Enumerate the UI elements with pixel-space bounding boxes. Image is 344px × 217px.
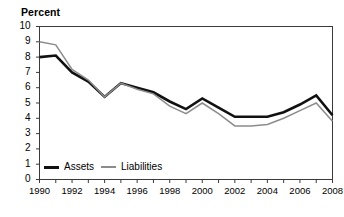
legend-label-assets: Assets [64,162,94,172]
x-tick-label: 1992 [55,186,89,196]
y-axis-tick-marks [36,27,40,180]
x-tick-label: 2004 [250,186,284,196]
x-tick-label: 2006 [283,186,317,196]
legend-entry-assets: Assets [44,162,94,172]
legend-swatch-liabilities-icon [101,166,116,168]
y-tick-label: 10 [13,21,31,31]
x-tick-label: 2002 [218,186,252,196]
chart-container: Percent 012345678910 1990199219941996199… [0,0,344,217]
x-tick-label: 1994 [88,186,122,196]
y-tick-label: 6 [13,82,31,92]
series-line-liabilities [40,42,333,126]
y-tick-label: 8 [13,52,31,62]
y-tick-label: 3 [13,128,31,138]
x-tick-label: 1998 [153,186,187,196]
series-line-assets [40,56,333,117]
x-tick-label: 1996 [120,186,154,196]
x-tick-label: 2008 [316,186,344,196]
legend-swatch-assets-icon [44,166,59,169]
y-tick-label: 9 [13,36,31,46]
x-axis-tick-marks [40,180,333,184]
chart-legend: Assets Liabilities [44,162,162,172]
x-tick-label: 1990 [23,186,57,196]
legend-label-liabilities: Liabilities [121,162,162,172]
y-tick-label: 7 [13,67,31,77]
y-tick-label: 5 [13,98,31,108]
y-tick-label: 2 [13,143,31,153]
y-tick-label: 1 [13,159,31,169]
y-tick-label: 4 [13,113,31,123]
x-tick-label: 2000 [185,186,219,196]
data-series-lines [40,42,333,126]
y-tick-label: 0 [13,174,31,184]
legend-entry-liabilities: Liabilities [101,162,162,172]
